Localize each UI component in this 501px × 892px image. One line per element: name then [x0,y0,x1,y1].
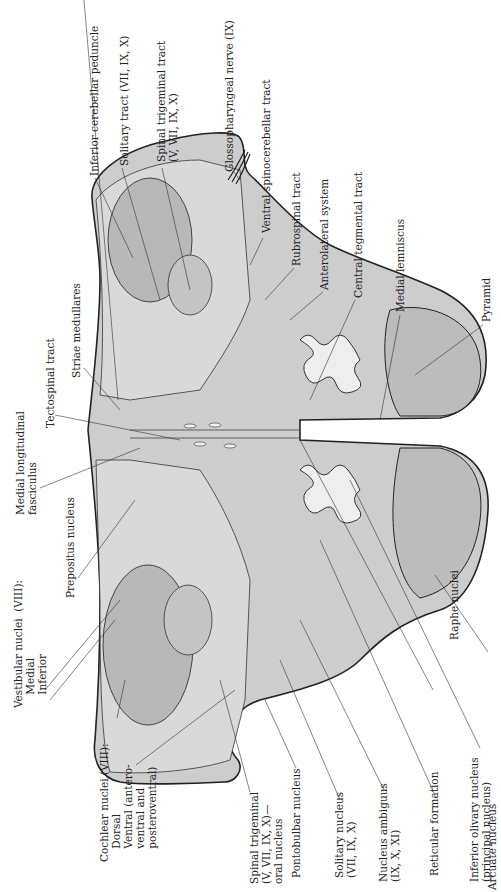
label-rubrospinal-tract: Rubrospinal tract [290,172,302,266]
label-prepositus-nucleus: Prepositus nucleus [64,497,76,598]
label-medial-lemniscus: Medial lemniscus [394,219,406,312]
label-arcuate-nucleus: Arcuate nucleus [486,804,498,890]
label-reticular-formation: Reticular formation [428,772,440,876]
label-medial-longitudinal-fasciculus: Medial longitudinal fasciculus [14,411,38,515]
label-striae-medullares: Striae medullares [70,283,82,378]
label-nucleus-ambiguus: Nucleus ambiguus (IX, X, XI) [377,783,401,882]
medulla-section-figure: Inferior cerebellar peduncle Solitary tr… [0,0,501,892]
label-cochlear-nuclei: Cochlear nuclei (VIII): Dorsal Ventral (… [98,743,158,862]
label-anterolateral-system: Anterolateral system [318,179,330,290]
label-raphe-nuclei: Raphe nuclei [448,570,460,640]
label-pyramid: Pyramid [480,278,492,322]
medulla-section-drawing [0,0,501,892]
label-inferior-cerebellar-peduncle: Inferior cerebellar peduncle [88,26,100,176]
label-spinal-trigeminal-oral-nucleus: Spinal trigeminal (V, VII, IX, X)— oral … [248,792,284,884]
label-central-tegmental-tract: Central tegmental tract [352,172,364,298]
label-vestibular-nuclei: Vestibular nuclei (VIII): Medial Inferio… [12,580,48,708]
label-glossopharyngeal-nerve: Glossopharyngeal nerve (IX) [223,20,235,172]
label-spinal-trigeminal-tract: Spinal trigeminal tract (V, VII, IX, X) [155,41,179,162]
label-solitary-nucleus: Solitary nucleus (VII, IX, X) [333,792,357,878]
label-tectospinal-tract: Tectospinal tract [44,338,56,428]
label-pontobulbar-nucleus: Pontobulbar nucleus [290,768,302,878]
label-ventral-spinocerebellar-tract: Ventral spinocerebellar tract [260,79,272,233]
label-solitary-tract: Solitary tract (VII, IX, X) [118,36,130,166]
